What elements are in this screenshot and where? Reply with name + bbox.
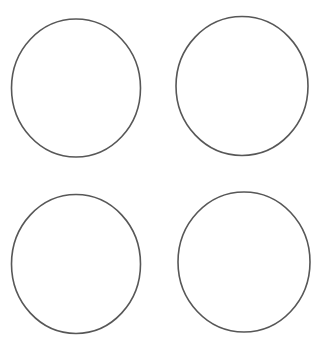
circle-top-left [12, 19, 141, 157]
circle-bottom-right [178, 192, 310, 332]
circle-top-right [176, 17, 308, 156]
drawing-canvas [0, 0, 329, 354]
circle-bottom-left [12, 195, 141, 334]
